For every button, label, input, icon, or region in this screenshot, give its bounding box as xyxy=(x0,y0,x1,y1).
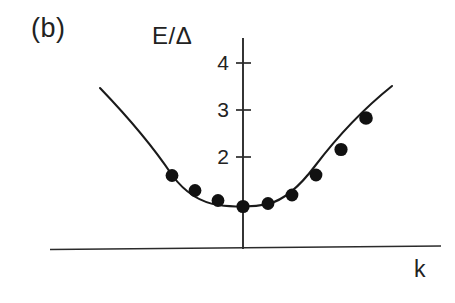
data-point xyxy=(212,194,225,207)
dispersion-curve xyxy=(100,86,392,207)
data-point xyxy=(189,184,202,197)
data-point xyxy=(334,143,347,156)
figure-panel-b: (b) E/Δ k 4 3 2 xyxy=(0,0,455,303)
data-point xyxy=(166,169,179,182)
data-point xyxy=(310,169,323,182)
data-point xyxy=(262,197,275,210)
panel-label: (b) xyxy=(31,15,66,42)
y-tick-label-4: 4 xyxy=(203,52,229,73)
data-point xyxy=(286,189,299,202)
x-axis-line xyxy=(50,246,441,250)
data-point xyxy=(359,111,373,125)
x-axis-label: k xyxy=(414,258,426,281)
y-tick-label-3: 3 xyxy=(203,99,229,120)
y-tick-label-2: 2 xyxy=(203,146,229,167)
y-axis-label: E/Δ xyxy=(152,24,192,48)
data-point xyxy=(236,200,249,213)
